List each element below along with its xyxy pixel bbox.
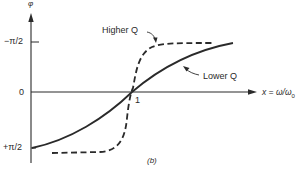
higher-q-arrow-icon (153, 38, 158, 44)
x-axis-arrow-icon (248, 89, 257, 94)
tick-label-one: 1 (135, 96, 140, 105)
x-axis-label-subscript: 0 (292, 93, 295, 99)
y-axis-label: φ (28, 0, 33, 8)
tick-label-zero: 0 (19, 88, 24, 97)
higher-q-label: Higher Q (102, 26, 138, 35)
lower-q-pointer (186, 69, 199, 75)
x-axis-label: x = ω/ω0 (262, 88, 295, 99)
tick-label-pos-pi-half: +π/2 (3, 143, 22, 152)
higher-q-curve (52, 43, 212, 153)
panel-label: (b) (147, 157, 157, 165)
y-axis-arrow-icon (28, 13, 33, 22)
lower-q-label: Lower Q (203, 72, 237, 81)
tick-label-neg-pi-half: −π/2 (4, 37, 23, 46)
lower-q-curve (32, 43, 233, 148)
phase-response-diagram (0, 0, 308, 169)
x-axis-label-text: x = ω/ω (262, 87, 292, 97)
